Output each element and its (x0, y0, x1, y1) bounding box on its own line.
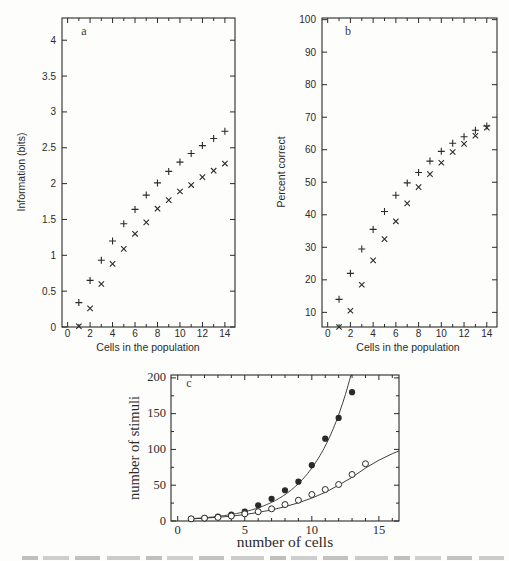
cross-marker (416, 184, 421, 189)
y-tick-label: 100 (299, 14, 316, 25)
y-tick-label: 90 (305, 47, 317, 58)
series-plus-markers (336, 122, 491, 302)
y-tick-label: 0.5 (42, 286, 56, 297)
plus-marker (415, 169, 422, 176)
open-circle-marker (309, 492, 315, 498)
panel-c-y-axis-title: number of stimuli (126, 396, 143, 500)
panel-c-label: c (186, 376, 191, 391)
x-tick-label: 4 (370, 328, 376, 339)
y-tick-label: 20 (305, 274, 317, 285)
filled-circle-marker (295, 479, 301, 485)
plus-marker (221, 128, 228, 135)
y-tick-label: 30 (305, 242, 317, 253)
cross-marker (99, 281, 104, 286)
series-filled-circles (188, 375, 355, 522)
panel-b-x-axis-title: Cells in the population (356, 341, 459, 353)
plus-marker (426, 158, 433, 165)
cross-marker (87, 306, 92, 311)
panel-c-plot-area: 051015050100150200 (147, 370, 399, 537)
plus-marker (438, 148, 445, 155)
x-tick-label: 2 (348, 328, 354, 339)
cross-marker (439, 160, 444, 165)
series-open-circles (188, 451, 399, 522)
figure-canvas: 0246810121400.511.522.533.54 02468101214… (0, 0, 509, 561)
x-tick-label: 15 (373, 523, 386, 537)
cross-marker (166, 197, 171, 202)
cross-marker (405, 201, 410, 206)
y-tick-label: 2 (50, 178, 56, 189)
plus-marker (120, 220, 127, 227)
y-tick-label: 80 (305, 79, 317, 90)
plus-marker (176, 159, 183, 166)
y-tick-label: 4 (50, 35, 56, 46)
open-circle-marker (188, 516, 194, 522)
x-tick-label: 14 (481, 328, 493, 339)
panel-b-label: b (345, 24, 351, 39)
filled-circle-marker (336, 415, 342, 421)
cross-marker (200, 174, 205, 179)
cross-marker (450, 149, 455, 154)
plus-marker (404, 179, 411, 186)
panel-a-y-axis-title: Information (bits) (15, 133, 27, 212)
filled-circle-marker (349, 389, 355, 395)
plus-marker (199, 142, 206, 149)
axis-ticks (171, 375, 399, 521)
plus-marker (165, 168, 172, 175)
y-tick-label: 0 (160, 514, 166, 528)
x-tick-label: 8 (155, 328, 161, 339)
x-tick-label: 0 (65, 328, 71, 339)
plus-marker (347, 270, 354, 277)
panel-b-chart: 02468101214102030405060708090100 (255, 0, 509, 362)
y-tick-label: 10 (305, 307, 317, 318)
panel-c-chart: 051015050100150200 (118, 362, 410, 554)
open-circle-marker (282, 502, 288, 508)
y-tick-label: 0 (50, 322, 56, 333)
filled-circle-marker (322, 436, 328, 442)
y-tick-label: 50 (154, 478, 167, 492)
plus-marker (449, 140, 456, 147)
x-tick-label: 14 (219, 328, 231, 339)
open-circle-marker (362, 461, 368, 467)
tick-labels: 02468101214102030405060708090100 (299, 14, 492, 339)
cross-marker (382, 236, 387, 241)
plot-frame (171, 375, 399, 521)
plus-marker (483, 122, 490, 129)
cross-marker (155, 206, 160, 211)
truncated-caption-line (22, 556, 504, 560)
open-circle-marker (349, 471, 355, 477)
y-tick-label: 1.5 (42, 214, 56, 225)
filled-circle-marker (255, 502, 261, 508)
y-tick-label: 2.5 (42, 142, 56, 153)
cross-marker (370, 258, 375, 263)
cross-marker (393, 219, 398, 224)
y-tick-label: 100 (147, 442, 166, 456)
plus-marker (154, 179, 161, 186)
filled-circle-marker (309, 462, 315, 468)
cross-marker (427, 171, 432, 176)
x-tick-label: 2 (87, 328, 93, 339)
panel-a-plot-area: 0246810121400.511.522.533.54 (42, 18, 235, 339)
panel-c-x-axis-title: number of cells (237, 533, 333, 551)
cross-marker (359, 282, 364, 287)
cross-marker (461, 141, 466, 146)
panel-b-y-axis-title: Percent correct (275, 136, 287, 207)
panel-a-chart: 0246810121400.511.522.533.54 (0, 0, 255, 362)
plus-marker (392, 192, 399, 199)
filled-circle-marker (268, 496, 274, 502)
cross-marker (211, 168, 216, 173)
plus-marker (188, 150, 195, 157)
cross-marker (121, 246, 126, 251)
plus-marker (461, 133, 468, 140)
x-tick-label: 6 (393, 328, 399, 339)
open-circle-marker (255, 509, 261, 515)
filled-circle-marker (282, 487, 288, 493)
panel-b-plot-area: 02468101214102030405060708090100 (299, 14, 497, 339)
y-tick-label: 60 (305, 144, 317, 155)
plus-marker (98, 257, 105, 264)
cross-marker (188, 182, 193, 187)
x-tick-label: 12 (197, 328, 209, 339)
series-cross-markers (76, 161, 227, 329)
plus-marker (358, 245, 365, 252)
y-tick-label: 40 (305, 209, 317, 220)
plus-marker (381, 208, 388, 215)
